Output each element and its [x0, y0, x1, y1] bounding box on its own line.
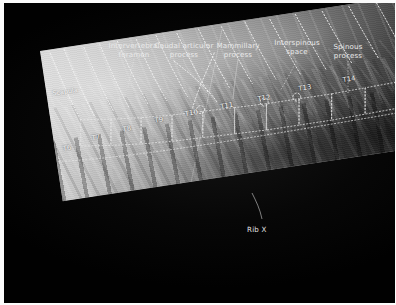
- radiograph-image: T6 T7 T8 T9 T10 T11 T12 T13 T14 Scapula: [40, 3, 395, 201]
- vertebra-label-t8: T8: [122, 124, 132, 133]
- callout-mammillary-process: Mammillary process: [203, 42, 273, 59]
- bottom-label-rib-x: Rib X: [247, 225, 267, 234]
- figure-matte: T6 T7 T8 T9 T10 T11 T12 T13 T14 Scapula: [4, 3, 395, 303]
- vertebra-label-t9: T9: [154, 115, 164, 124]
- vertebra-label-t6: T6: [62, 143, 72, 152]
- vertebra-label-t7: T7: [91, 133, 101, 142]
- callout-spinous-process: Spinous process: [319, 43, 377, 60]
- film-grain: [40, 3, 395, 201]
- figure-plate: T6 T7 T8 T9 T10 T11 T12 T13 T14 Scapula: [0, 0, 396, 305]
